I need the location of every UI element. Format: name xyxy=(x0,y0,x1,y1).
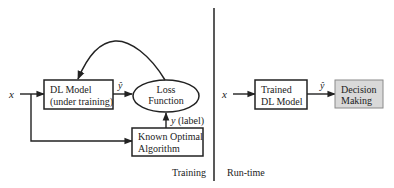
decision-line2: Making xyxy=(341,95,372,106)
training-section: x DL Model (under training) ŷ Loss Funct… xyxy=(8,41,206,178)
dl-model-line1: DL Model xyxy=(50,84,92,95)
label-edge-text: y (label) xyxy=(170,115,204,127)
training-vs-runtime-diagram: x DL Model (under training) ŷ Loss Funct… xyxy=(0,0,394,188)
trained-line2: DL Model xyxy=(261,96,303,107)
decision-line1: Decision xyxy=(341,84,377,95)
loss-line2: Function xyxy=(148,95,184,106)
loss-line1: Loss xyxy=(157,84,176,95)
training-input-x: x xyxy=(8,88,14,100)
trained-line1: Trained xyxy=(261,84,292,95)
runtime-prediction-label: ŷ xyxy=(319,80,325,91)
runtime-section: x Trained DL Model ŷ Decision Making Run… xyxy=(221,80,383,178)
prediction-label: ŷ xyxy=(117,80,123,91)
runtime-input-x: x xyxy=(221,88,227,100)
dl-model-line2: (under training) xyxy=(50,96,113,108)
feedback-curve-arrow xyxy=(78,41,165,80)
runtime-section-label: Run-time xyxy=(227,167,265,178)
optimal-line1: Known Optimal xyxy=(138,131,203,142)
optimal-line2: Algorithm xyxy=(138,143,180,154)
training-section-label: Training xyxy=(172,167,206,178)
